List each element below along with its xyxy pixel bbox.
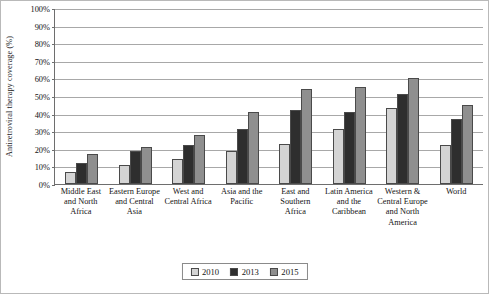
- y-axis-tick-label: 100%: [30, 5, 50, 14]
- x-axis-category-label: Middle East and North Africa: [54, 187, 108, 228]
- legend-swatch-icon: [230, 268, 238, 276]
- y-axis-tick-label: 60%: [35, 75, 50, 84]
- bar-groups: [55, 9, 483, 184]
- x-axis-category-label: Eastern Europe and Central Asia: [108, 187, 162, 228]
- bar-group: [216, 9, 270, 184]
- bar-2010: [440, 145, 451, 184]
- legend-item: 2013: [230, 267, 259, 277]
- x-axis-category-label: Western & Central Europe and North Ameri…: [376, 187, 430, 228]
- bar-2010: [119, 165, 130, 184]
- bar-2010: [386, 108, 397, 184]
- y-axis-tick-label: 10%: [35, 163, 50, 172]
- legend-item: 2015: [270, 267, 299, 277]
- bar-2010: [279, 144, 290, 184]
- bar-2010: [65, 172, 76, 184]
- bar-2015: [194, 135, 205, 184]
- y-axis-tick-labels: 100%90%80%70%60%50%40%30%20%10%0%: [19, 9, 52, 185]
- chart-legend: 201020132015: [181, 263, 307, 280]
- plot-wrapper: 100%90%80%70%60%50%40%30%20%10%0%: [19, 9, 483, 191]
- plot-area: [54, 9, 483, 185]
- y-axis-tick-label: 90%: [35, 22, 50, 31]
- legend-item: 2010: [190, 267, 219, 277]
- bar-2015: [355, 87, 366, 184]
- y-axis-tick-label: 30%: [35, 128, 50, 137]
- bar-2013: [183, 145, 194, 184]
- legend-label: 2015: [281, 267, 298, 277]
- bar-2013: [237, 129, 248, 184]
- legend-swatch-icon: [190, 268, 198, 276]
- bar-2013: [76, 163, 87, 184]
- bar-2010: [226, 151, 237, 184]
- y-axis-tick-label: 40%: [35, 110, 50, 119]
- bar-group: [323, 9, 377, 184]
- bar-2015: [301, 89, 312, 184]
- y-axis-tick-label: 50%: [35, 93, 50, 102]
- y-axis-title: Antiretroviral therapy coverage (%): [1, 1, 19, 191]
- bar-group: [376, 9, 430, 184]
- bar-2013: [344, 112, 355, 184]
- x-axis-category-label: East and Southern Africa: [269, 187, 323, 228]
- bar-2010: [172, 159, 183, 184]
- x-axis-category-label: Asia and the Pacific: [215, 187, 269, 228]
- bar-2015: [248, 112, 259, 184]
- bar-group: [269, 9, 323, 184]
- bar-2013: [290, 110, 301, 184]
- y-axis-tick-label: 70%: [35, 57, 50, 66]
- x-axis-category-labels: Middle East and North AfricaEastern Euro…: [54, 187, 483, 228]
- x-axis-category-label: West and Central Africa: [161, 187, 215, 228]
- legend-swatch-icon: [270, 268, 278, 276]
- bar-group: [109, 9, 163, 184]
- y-axis-tick-label: 20%: [35, 145, 50, 154]
- bar-group: [55, 9, 109, 184]
- y-axis-title-text: Antiretroviral therapy coverage (%): [6, 35, 15, 156]
- legend-label: 2013: [242, 267, 259, 277]
- x-axis-category-label: Latin America and the Caribbean: [322, 187, 376, 228]
- legend-label: 2010: [202, 267, 219, 277]
- bar-2013: [397, 94, 408, 184]
- bar-2015: [462, 105, 473, 184]
- y-axis-tick-label: 80%: [35, 40, 50, 49]
- bar-2013: [130, 151, 141, 184]
- bar-2015: [87, 154, 98, 184]
- bar-2015: [141, 147, 152, 184]
- y-axis-tickmark: [52, 185, 56, 186]
- bar-2013: [451, 119, 462, 184]
- bar-group: [162, 9, 216, 184]
- bar-2010: [333, 129, 344, 184]
- bar-2015: [408, 78, 419, 184]
- y-axis-tick-label: 0%: [39, 181, 50, 190]
- chart-figure: Antiretroviral therapy coverage (%) 100%…: [0, 0, 489, 294]
- bar-group: [430, 9, 484, 184]
- x-axis-category-label: World: [429, 187, 483, 228]
